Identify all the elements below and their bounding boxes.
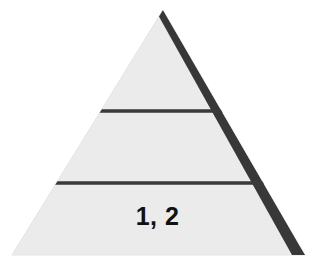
bottom-tier-label: 1, 2 [0,204,321,229]
pyramid-diagram: 1, 2 [0,0,327,269]
